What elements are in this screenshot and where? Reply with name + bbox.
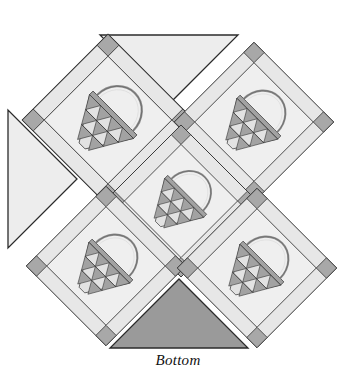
bottom-label: Bottom [0, 352, 356, 369]
quilt-diagram-figure: Bottom [0, 0, 356, 384]
quilt-layout-canvas [0, 0, 356, 384]
